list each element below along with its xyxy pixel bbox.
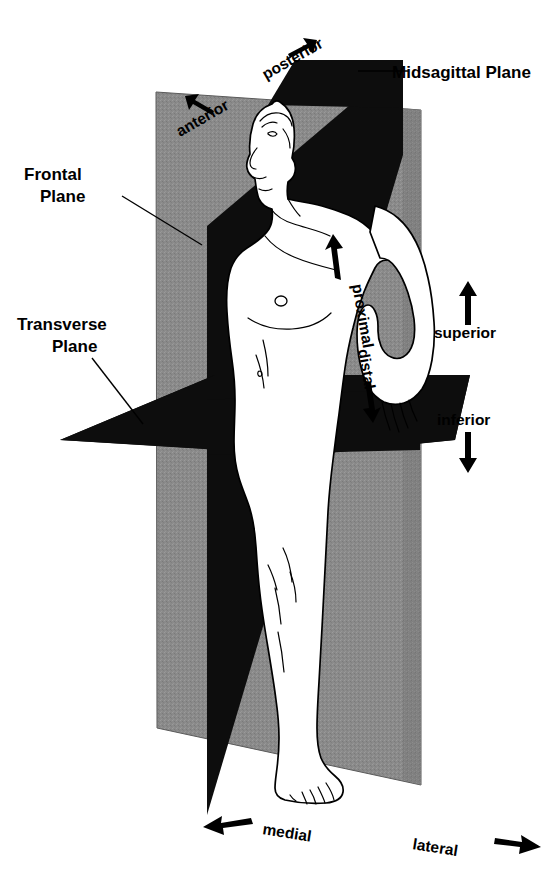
- inferior-arrow-icon: [459, 432, 477, 473]
- lateral-arrow-icon: [494, 835, 541, 854]
- lateral-label: lateral: [412, 835, 460, 859]
- inferior-label: inferior: [437, 411, 490, 428]
- frontal-plane-label-line2: Plane: [40, 187, 85, 206]
- frontal-plane-label-line1: Frontal: [24, 165, 82, 184]
- transverse-plane-label-line1: Transverse: [17, 315, 107, 334]
- anatomical-planes-diagram: Midsagittal Plane Frontal Plane Transver…: [0, 0, 558, 869]
- medial-arrow-icon: [203, 816, 253, 835]
- medial-label: medial: [262, 820, 313, 844]
- superior-label: superior: [434, 324, 496, 341]
- midsagittal-plane-label: Midsagittal Plane: [392, 63, 531, 82]
- diagram-canvas: Midsagittal Plane Frontal Plane Transver…: [0, 0, 558, 869]
- transverse-leader-line: [92, 358, 143, 424]
- superior-arrow-icon: [459, 281, 477, 325]
- transverse-plane-label-line2: Plane: [52, 337, 97, 356]
